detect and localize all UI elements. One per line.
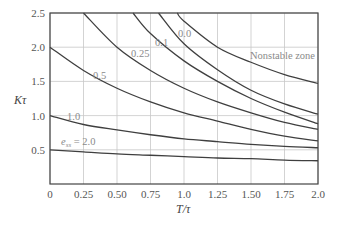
- x-tick-label: 1.0: [177, 188, 191, 200]
- curve-label-1.0: 1.0: [67, 111, 80, 122]
- curve-label-0.5: 0.5: [93, 70, 106, 81]
- curve-label-0.0: 0.0: [178, 28, 191, 39]
- x-tick-label: 0: [47, 188, 53, 200]
- chart: 00.250.500.751.01.251.501.752.0 0.51.01.…: [0, 0, 337, 225]
- y-axis-label: Kτ: [13, 93, 27, 107]
- curve-0.1: [133, 13, 318, 124]
- curve-label-0.25: 0.25: [131, 48, 149, 59]
- y-tick-label: 1.5: [31, 75, 45, 87]
- x-tick-label: 0.25: [74, 188, 94, 200]
- x-tick-label: 0.50: [107, 188, 127, 200]
- x-tick-label: 1.75: [275, 188, 295, 200]
- curve-label-0.1: 0.1: [155, 37, 168, 48]
- y-tick-labels: 0.51.01.52.02.5: [31, 7, 45, 156]
- x-tick-label: 2.0: [311, 188, 325, 200]
- y-tick-label: 0.5: [31, 144, 45, 156]
- x-tick-label: 0.75: [141, 188, 161, 200]
- y-tick-label: 1.0: [31, 110, 45, 122]
- y-tick-label: 2.5: [31, 7, 45, 19]
- x-tick-label: 1.25: [208, 188, 228, 200]
- curve-label-2.0: ess = 2.0: [61, 136, 95, 149]
- curve-stability-boundary: [177, 13, 318, 83]
- y-tick-label: 2.0: [31, 41, 45, 53]
- nonstable-zone-label: Nonstable zone: [250, 50, 315, 61]
- x-tick-label: 1.50: [241, 188, 261, 200]
- x-axis-label: T/τ: [176, 202, 191, 216]
- x-tick-labels: 00.250.500.751.01.251.501.752.0: [47, 188, 325, 200]
- ess-value: = 2.0: [71, 136, 95, 147]
